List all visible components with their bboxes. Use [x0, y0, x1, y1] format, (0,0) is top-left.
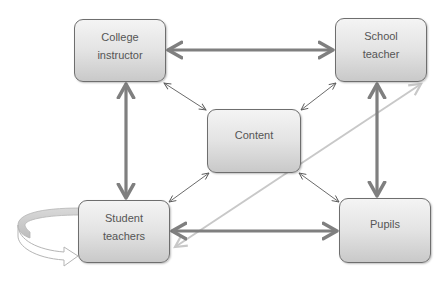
node-pupils: Pupils: [339, 198, 431, 263]
arrow-content-pupils: [299, 173, 339, 202]
diagram-canvas: College instructor School teacher Conten…: [0, 0, 448, 282]
node-college-instructor: College instructor: [74, 19, 166, 82]
node-school-teacher-label: School teacher: [363, 27, 400, 63]
arrow-content-school-teacher: [301, 83, 336, 110]
node-student-teachers-label: Student teachers: [103, 209, 145, 245]
node-pupils-label: Pupils: [370, 215, 400, 233]
circular-cycle-arrow: [18, 208, 80, 266]
node-college-instructor-label: College instructor: [97, 28, 142, 64]
node-content-label: Content: [235, 126, 274, 144]
arrow-content-college-instructor: [164, 83, 206, 110]
node-school-teacher: School teacher: [335, 18, 427, 82]
arrow-content-student-teachers: [169, 173, 209, 202]
node-content: Content: [207, 109, 301, 173]
node-student-teachers: Student teachers: [78, 200, 170, 263]
